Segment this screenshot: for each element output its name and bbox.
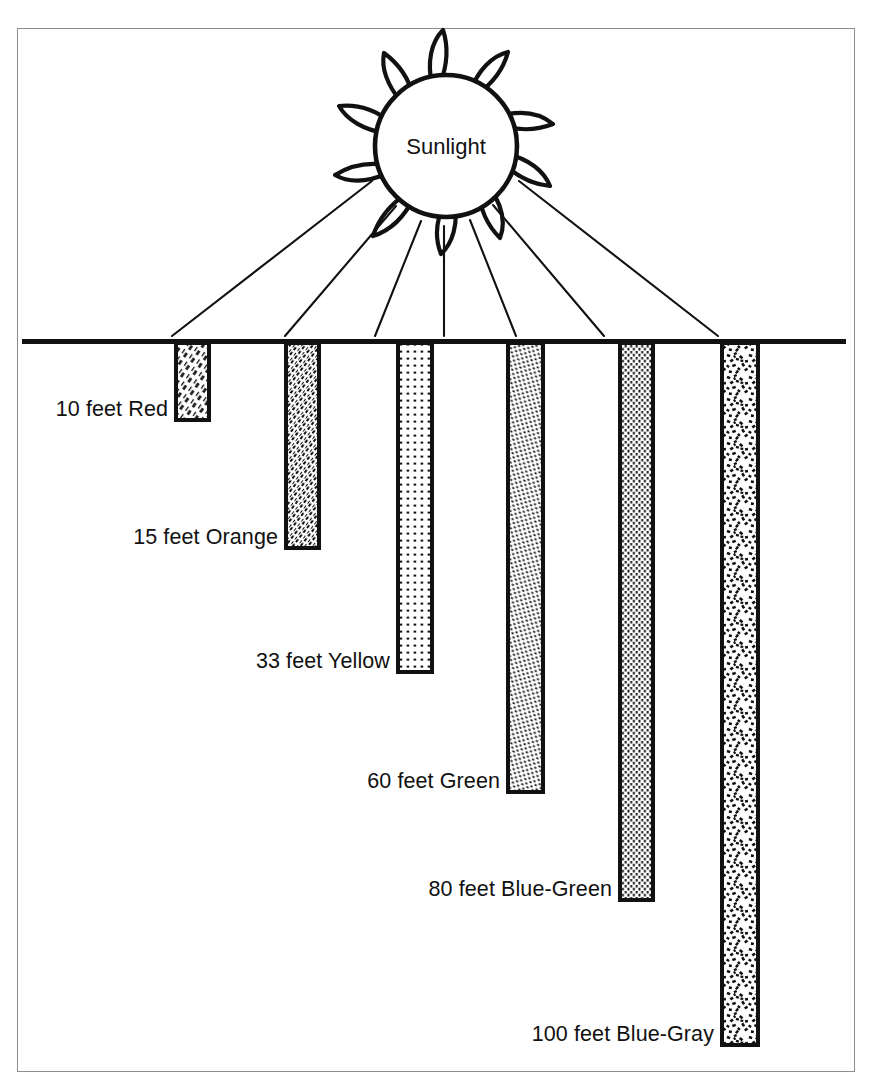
- depth-label-green: 60 feet Green: [355, 769, 500, 794]
- light-ray-1: [172, 181, 372, 336]
- depth-bars: [176, 343, 758, 1045]
- depth-label-blue-gray: 100 feet Blue-Gray: [500, 1022, 714, 1047]
- depth-label-red: 10 feet Red: [40, 397, 168, 422]
- depth-bar-green: [508, 343, 543, 792]
- depth-bar-red: [176, 343, 209, 420]
- depth-bar-yellow: [398, 343, 432, 672]
- sun-label: Sunlight: [386, 134, 506, 160]
- light-ray-3: [375, 221, 421, 336]
- light-ray-6: [493, 205, 604, 336]
- depth-bar-blue-gray: [722, 343, 758, 1045]
- depth-label-orange: 15 feet Orange: [93, 525, 278, 550]
- depth-bar-orange: [286, 343, 319, 548]
- depth-label-yellow: 33 feet Yellow: [243, 649, 390, 674]
- light-ray-7: [519, 181, 718, 336]
- depth-label-blue-green: 80 feet Blue-Green: [415, 877, 612, 902]
- light-ray-5: [470, 220, 516, 336]
- depth-bar-blue-green: [620, 343, 653, 900]
- light-ray-2: [285, 206, 396, 336]
